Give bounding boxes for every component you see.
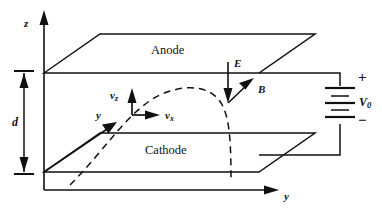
- battery-positive-label: +: [358, 70, 367, 85]
- velocity-vz-label: vz: [110, 90, 118, 103]
- magnetic-field-label: B: [258, 84, 265, 95]
- physics-diagram-capacitor: z Anode Cathode y y vz vx E B d + − V0: [0, 0, 382, 210]
- source-voltage-subscript: 0: [367, 100, 371, 110]
- y-axis-bottom-label: y: [284, 191, 289, 202]
- electric-field-arrow: [224, 62, 233, 103]
- z-axis: [40, 10, 49, 190]
- anode-label: Anode: [151, 44, 184, 57]
- velocity-vector-vz: [128, 88, 137, 115]
- diagram-vector-graphics: [0, 0, 382, 210]
- velocity-vx-subscript: x: [170, 114, 174, 123]
- electric-field-label: E: [234, 58, 241, 69]
- magnetic-field-arrow: [228, 78, 254, 103]
- battery-symbol: [325, 88, 355, 117]
- velocity-vx-label: vx: [165, 110, 174, 123]
- y-axis-origin-label: y: [96, 110, 101, 121]
- source-voltage-label: V0: [359, 96, 371, 110]
- y-axis-bottom: [44, 186, 279, 195]
- wire-anode-to-battery: [259, 73, 340, 86]
- velocity-vz-subscript: z: [115, 94, 118, 103]
- battery-negative-label: −: [358, 113, 367, 128]
- cathode-label: Cathode: [145, 144, 187, 157]
- gap-dimension-label: d: [12, 116, 18, 128]
- wire-cathode-to-battery: [259, 124, 340, 155]
- source-voltage-base: V: [359, 95, 367, 109]
- z-axis-label: z: [24, 18, 28, 29]
- y-axis-origin: [44, 122, 117, 172]
